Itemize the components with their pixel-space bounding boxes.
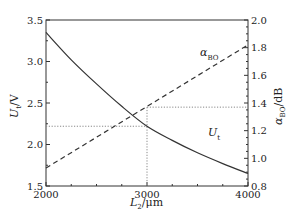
y-left-tick-label: 2.5 xyxy=(27,98,43,109)
y-left-tick-label: 1.5 xyxy=(27,181,43,192)
ut-series-annotation: Ut xyxy=(208,126,220,142)
x-axis-label: L2/μm xyxy=(129,196,164,211)
y-right-tick-label: 1.4 xyxy=(251,98,267,109)
y-right-tick-label: 1.8 xyxy=(251,42,267,53)
y-right-tick-label: 0.8 xyxy=(251,181,267,192)
y-right-tick-label: 1.0 xyxy=(251,153,267,164)
y-left-tick-label: 3.0 xyxy=(27,56,43,67)
y-right-tick-label: 1.2 xyxy=(251,125,267,136)
reference-lines xyxy=(46,107,248,186)
y-right-tick-label: 2.0 xyxy=(251,15,267,26)
alpha-series-annotation: αBO xyxy=(200,46,219,62)
dual-axis-line-chart: 2000300040001.52.02.53.03.50.81.01.21.41… xyxy=(0,0,290,213)
y-left-axis-label: Ut/V xyxy=(8,93,23,118)
y-right-axis-label: αBO/dB xyxy=(272,88,287,125)
y-right-tick-label: 1.6 xyxy=(251,70,267,81)
y-left-tick-label: 2.0 xyxy=(27,139,43,150)
y-left-tick-label: 3.5 xyxy=(27,15,43,26)
